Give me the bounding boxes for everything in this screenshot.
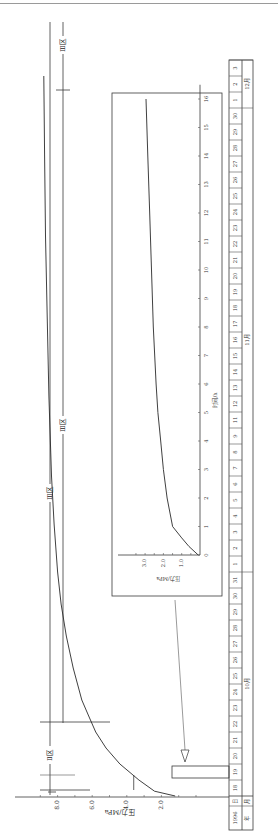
day-label: 15: [232, 353, 238, 360]
year-unit: 年: [243, 816, 251, 821]
rotated-chart-group: 1819202122232425262728293031123456789111…: [15, 22, 253, 830]
day-label: 6: [232, 482, 238, 485]
inset-time-tick-label: 15: [203, 124, 209, 131]
day-label: 25: [232, 673, 238, 680]
pressure-axis-title: 压力/MPa: [104, 808, 135, 817]
day-label: 25: [232, 193, 238, 200]
day-label: 8: [232, 450, 238, 453]
inset-pressure-axis-title: 压力/MPa: [156, 575, 179, 583]
day-label: 28: [232, 145, 238, 152]
inset-time-tick-label: 13: [203, 181, 209, 188]
day-label: 26: [232, 657, 238, 664]
inset-time-tick-label: 1: [203, 525, 209, 528]
day-label: 28: [232, 625, 238, 632]
inset-time-tick-label: 2: [203, 496, 209, 499]
zoom-source-box: [172, 766, 229, 778]
day-label: 31: [232, 577, 238, 584]
day-label: 18: [232, 305, 238, 312]
inset-time-tick-label: 12: [203, 210, 209, 217]
inset-time-tick-label: 6: [203, 382, 209, 385]
header-label: 日: [232, 799, 239, 804]
day-label: 19: [232, 289, 238, 296]
day-label: 16: [232, 337, 238, 344]
inset-time-tick-label: 11: [203, 238, 209, 245]
inset-time-tick-label: 5: [203, 411, 209, 414]
day-label: 7: [232, 466, 238, 469]
inset-time-tick-label: 3: [203, 468, 209, 471]
day-label: 17: [232, 321, 238, 328]
zoom-arrow-line: [175, 600, 185, 750]
day-label: 3: [232, 66, 238, 69]
day-label: 22: [232, 241, 238, 248]
inset-pressure-tick-label: 1.0: [178, 559, 184, 567]
day-label: 12: [232, 401, 238, 408]
day-label: 24: [232, 208, 238, 215]
day-label: 29: [232, 609, 238, 616]
month-label: 11月: [244, 334, 251, 346]
day-label: 13: [232, 385, 238, 392]
pressure-time-chart: 1819202122232425262728293031123456789111…: [0, 0, 278, 834]
pressure-curve: [44, 76, 175, 796]
day-label: 21: [232, 257, 238, 264]
zoom-arrow-head: [181, 750, 189, 762]
date-table: [229, 60, 253, 830]
day-label: 29: [232, 129, 238, 136]
inset-time-tick-label: 9: [203, 297, 209, 300]
day-label: 11: [232, 417, 238, 424]
inset-time-tick-label: 4: [203, 439, 209, 443]
day-label: 2: [232, 82, 238, 85]
day-label: 22: [232, 721, 238, 728]
inset-time-tick-label: 0: [203, 553, 209, 556]
inset-time-tick-label: 10: [203, 267, 209, 274]
inset-time-tick-label: 14: [203, 152, 209, 159]
day-label: 30: [232, 113, 238, 120]
zone-label: Ⅲ区: [59, 38, 67, 51]
inset-time-tick-label: 16: [203, 96, 209, 103]
day-label: 18: [232, 785, 238, 792]
inset-time-tick-label: 8: [203, 325, 209, 328]
day-label: 14: [232, 368, 238, 375]
day-label: 4: [232, 514, 238, 518]
day-label: 3: [232, 530, 238, 533]
month-label: 12月: [244, 78, 251, 90]
day-label: 20: [232, 753, 238, 760]
day-label: 26: [232, 177, 238, 184]
year-label: 1996: [232, 811, 238, 824]
pressure-tick-label: 8.0: [53, 800, 60, 810]
day-label: 21: [232, 737, 238, 744]
pressure-tick-label: 6.0: [88, 800, 95, 810]
day-label: 5: [232, 498, 238, 501]
day-label: 30: [232, 593, 238, 600]
day-label: 1: [232, 562, 238, 565]
day-label: 1: [232, 98, 238, 101]
pressure-tick-label: 2.0: [157, 800, 164, 810]
inset-pressure-tick-label: 2.0: [160, 559, 166, 567]
day-label: 27: [232, 641, 238, 648]
day-label: 27: [232, 161, 238, 168]
inset-time-tick-label: 7: [203, 354, 209, 357]
day-label: 23: [232, 225, 238, 232]
inset-frame: [112, 93, 222, 596]
day-label: 24: [232, 688, 238, 695]
day-label: 23: [232, 705, 238, 712]
inset-pressure-tick-label: 3.0: [141, 559, 147, 567]
header-label: 月: [244, 799, 251, 804]
inset-pressure-curve: [146, 99, 198, 555]
zone-label: Ⅱ区: [46, 749, 54, 760]
day-label: 20: [232, 273, 238, 280]
inset-time-axis-title: 时间/h: [211, 392, 219, 408]
day-label: 2: [232, 546, 238, 549]
zone-label: Ⅲ区: [59, 418, 67, 431]
month-label: 10月: [244, 678, 251, 690]
day-label: 19: [232, 769, 238, 776]
day-label: 9: [232, 434, 238, 437]
